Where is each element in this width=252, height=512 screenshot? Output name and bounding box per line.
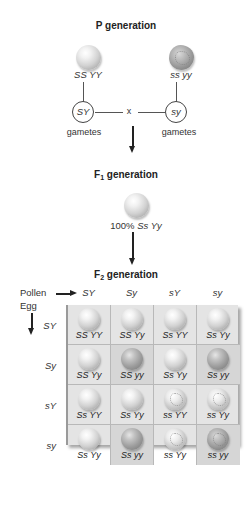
cross-line-right [138,112,165,113]
parent-left-connector [83,82,84,102]
round-green-pea-icon [121,428,143,450]
egg-gamete-1: SY [36,320,56,331]
f1-result-genotype: Ss Yy [137,220,162,231]
round-yellow-pea-icon [78,348,100,370]
wrinkled-yellow-pea-icon [207,388,229,410]
round-green-pea-icon [207,348,229,370]
f1-result: 100% Ss Yy [0,220,252,231]
pollen-label: Pollen [20,287,46,298]
cross-line-left [95,112,123,113]
punnett-cell: Ss yy [111,425,154,465]
f1-result-percent: 100% [110,220,134,231]
punnett-cell: SS Yy [68,345,111,385]
punnett-cell: ss Yy [197,385,240,425]
punnett-cell: Ss Yy [111,385,154,425]
egg-gamete-4: sy [36,440,56,451]
round-yellow-pea-icon [121,388,143,410]
round-yellow-pea-icon [76,45,101,70]
cross-symbol: x [124,106,134,116]
wrinkled-green-pea-icon [207,428,229,450]
f1-round-yellow-pea-icon [124,193,149,218]
f2-generation-title: F2 generation [0,269,252,281]
egg-gamete-3: sY [36,400,56,411]
pollen-gamete-4: sy [196,287,239,298]
p-generation-title: P generation [0,20,252,31]
round-yellow-pea-icon [78,428,100,450]
wrinkled-green-pea-icon [169,45,194,70]
egg-gamete-2: Sy [36,360,56,371]
round-yellow-pea-icon [78,388,100,410]
gamete-left-circle: SY [72,101,94,123]
round-yellow-pea-icon [78,308,100,330]
round-green-pea-icon [121,348,143,370]
parent-left-genotype: SS YY [58,69,118,80]
parent-right-connector [176,82,177,102]
arrow-p-to-f1 [132,126,134,146]
pollen-gamete-1: SY [67,287,110,298]
wrinkled-yellow-pea-icon [164,388,186,410]
arrow-f1-to-f2 [132,232,134,258]
pollen-gamete-3: sY [153,287,196,298]
egg-arrow-shaft [31,313,33,329]
arrow-down-icon [129,258,135,265]
punnett-square: SS YY SS Yy Ss YY Ss Yy SS Yy SS yy Ss Y… [66,305,238,445]
punnett-cell: Ss yy [197,345,240,385]
punnett-cell: ss Yy [154,425,197,465]
egg-label: Egg [20,300,37,311]
punnett-cell: ss YY [154,385,197,425]
round-yellow-pea-icon [121,308,143,330]
punnett-cell: SS Yy [111,305,154,345]
round-yellow-pea-icon [164,308,186,330]
punnett-cell: SS YY [68,305,111,345]
round-yellow-pea-icon [207,308,229,330]
punnett-cell: Ss YY [154,305,197,345]
wrinkled-yellow-pea-icon [164,428,186,450]
pollen-gamete-2: Sy [110,287,153,298]
gametes-right-label: gametes [148,127,210,137]
punnett-cell: ss yy [197,425,240,465]
punnett-cell: Ss Yy [68,425,111,465]
punnett-cell: Ss Yy [154,345,197,385]
punnett-cell: SS yy [111,345,154,385]
punnett-cell: Ss Yy [197,305,240,345]
arrow-down-icon [129,146,135,153]
punnett-cell: Ss YY [68,385,111,425]
gamete-right-circle: sy [165,101,187,123]
gametes-left-label: gametes [53,127,115,137]
f1-generation-title: F1 generation [0,169,252,181]
round-yellow-pea-icon [164,348,186,370]
parent-right-genotype: ss yy [151,69,211,80]
arrow-down-icon [28,328,34,335]
